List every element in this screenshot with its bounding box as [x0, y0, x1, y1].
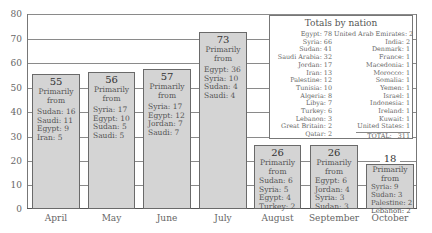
bar-caption: Primarily from — [255, 159, 300, 176]
legend-title: Totals by nation — [270, 18, 412, 29]
bar-breakdown: Syria: 9 Sudan: 3 Palestine: 2 Lebanon: … — [367, 183, 413, 215]
bar-breakdown: Egypt: 6 Jordan: 4 Syria: 3 Sudan: 3 — [311, 177, 357, 211]
legend-total: TOTAL: 311 — [356, 132, 410, 141]
y-tick-0: 0 — [2, 204, 22, 214]
bar-breakdown: Sudan: 6 Syria: 5 Egypt: 4 Turkey: 2 — [255, 177, 300, 211]
bar-caption: Primarily from — [311, 159, 357, 176]
legend-column-1: Egypt: 78 Syria: 66 Sudan: 41 Saudi Arab… — [272, 31, 332, 139]
bar-breakdown: Syria: 17 Egypt: 10 Sudan: 5 Saudi: 5 — [89, 106, 134, 140]
y-tick-20: 20 — [2, 156, 22, 166]
bar-caption: Primarily from — [33, 88, 79, 105]
y-tick-80: 80 — [2, 9, 22, 19]
plot-right-border — [416, 14, 417, 209]
bar-april: 55 Primarily from Sudan: 16 Saudi: 11 Eg… — [32, 74, 80, 209]
x-label-july: July — [199, 213, 247, 223]
y-tick-40: 40 — [2, 107, 22, 117]
y-tick-30: 30 — [2, 132, 22, 142]
x-label-june: June — [143, 213, 191, 223]
legend-totals-by-nation: Totals by nation Egypt: 78 Syria: 66 Sud… — [269, 15, 413, 139]
legend-entry: United States: 1 — [334, 123, 410, 131]
bar-breakdown: Sudan: 16 Saudi: 11 Egypt: 9 Iran: 5 — [33, 108, 79, 142]
bar-caption: Primarily from — [144, 83, 190, 100]
x-label-august: August — [254, 213, 301, 223]
bar-chart: 80 70 60 50 40 30 20 10 0 Totals by nati… — [0, 0, 432, 233]
y-axis-line — [27, 14, 28, 209]
bar-august: 26 Primarily from Sudan: 6 Syria: 5 Egyp… — [254, 145, 301, 209]
bar-june: 57 Primarily from Syria: 17 Egypt: 12 Jo… — [143, 69, 191, 209]
bar-september: 26 Primarily from Egypt: 6 Jordan: 4 Syr… — [310, 145, 358, 209]
bar-october: Primarily from Syria: 9 Sudan: 3 Palesti… — [366, 164, 414, 209]
legend-entry: Qatar: 2 — [272, 131, 332, 139]
y-tick-60: 60 — [2, 58, 22, 68]
bar-value-october: 18 — [380, 153, 400, 164]
bar-caption: Primarily from — [200, 46, 246, 63]
legend-column-2: United Arab Emirates: 2 India: 2 Denmark… — [334, 31, 410, 141]
bar-may: 56 Primarily from Syria: 17 Egypt: 10 Su… — [88, 72, 135, 209]
x-label-april: April — [32, 213, 80, 223]
y-tick-50: 50 — [2, 83, 22, 93]
bar-caption: Primarily from — [89, 86, 134, 103]
bar-caption: Primarily from — [367, 166, 413, 183]
x-label-may: May — [88, 213, 135, 223]
y-tick-70: 70 — [2, 34, 22, 44]
bar-breakdown: Egypt: 36 Syria: 10 Sudan: 4 Saudi: 4 — [200, 66, 246, 100]
x-label-september: September — [306, 213, 362, 223]
bar-breakdown: Syria: 17 Egypt: 12 Jordan: 7 Saudi: 7 — [144, 103, 190, 137]
x-label-october: October — [366, 213, 414, 223]
bar-july: 73 Primarily from Egypt: 36 Syria: 10 Su… — [199, 32, 247, 209]
y-tick-10: 10 — [2, 180, 22, 190]
